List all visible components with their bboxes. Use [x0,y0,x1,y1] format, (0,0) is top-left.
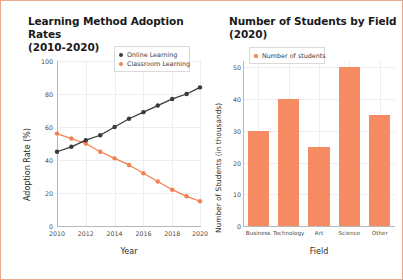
x-axis-line [57,226,201,227]
xtick-2010: 2010 [49,230,65,237]
xtick-2014: 2014 [107,230,123,237]
bar-ytick-20: 20 [223,159,241,166]
x-axis-title: Year [121,247,138,256]
xtick-2018: 2018 [164,230,180,237]
legend-dot-classroom-icon [119,62,123,66]
bar-y-axis-title: Number of Students (in thousands) [214,103,223,233]
legend-swatch-students-icon [254,54,258,58]
bar-ytick-30: 30 [223,127,241,134]
xtick-2016: 2016 [135,230,151,237]
legend-item-classroom-learning: Classroom Learning [119,59,184,68]
line-series-layer [57,61,201,226]
line-chart-panel: Learning Method Adoption Rates (2010-202… [1,1,211,280]
bar-business[interactable] [248,131,269,226]
bar-chart-legend: Number of students [249,47,325,64]
xtick-2020: 2020 [192,230,208,237]
bar-chart-title-line2: (2020) [229,28,403,41]
legend-label-classroom-learning: Classroom Learning [127,60,190,68]
ytick-60: 60 [35,124,53,131]
bar-y-axis-line [243,61,244,226]
bar-ytick-40: 40 [223,96,241,103]
xtick-2012: 2012 [78,230,94,237]
bar-chart-panel: Number of Students by Field (2020) [211,1,403,280]
ytick-100: 100 [35,58,53,65]
bar-xtick-art: Art [315,230,323,236]
bar-xtick-business: Business [246,230,271,236]
bar-other[interactable] [369,115,390,226]
ytick-0: 0 [35,223,53,230]
bar-x-axis-title: Field [310,247,328,256]
legend-item-number-of-students: Number of students [254,51,319,60]
ytick-40: 40 [35,157,53,164]
legend-label-number-of-students: Number of students [262,52,326,60]
ytick-20: 20 [35,190,53,197]
bar-chart-title-line1: Number of Students by Field [229,15,403,28]
bar-ytick-50: 50 [223,64,241,71]
bar-chart-plot-area [243,61,395,226]
legend-dot-online-icon [119,53,123,57]
bar-xtick-science: Science [339,230,361,236]
bar-x-axis-line [243,226,395,227]
legend-label-online-learning: Online Learning [127,51,177,59]
bar-science[interactable] [339,67,360,226]
y-axis-title: Adoption Rate (%) [23,128,32,201]
bar-xtick-technology: Technology [273,230,304,236]
ytick-80: 80 [35,91,53,98]
bar-ytick-10: 10 [223,191,241,198]
line-chart-legend: Online Learning Classroom Learning [114,46,190,72]
bar-chart-title: Number of Students by Field (2020) [229,15,403,41]
line-chart-plot-area [57,61,201,226]
figure-canvas: Learning Method Adoption Rates (2010-202… [0,0,403,280]
bar-ytick-0: 0 [223,223,241,230]
bar-technology[interactable] [278,99,299,226]
legend-item-online-learning: Online Learning [119,50,184,59]
line-chart-title-line1: Learning Method Adoption Rates [28,15,208,41]
bar-art[interactable] [308,147,329,226]
bar-xtick-other: Other [372,230,388,236]
